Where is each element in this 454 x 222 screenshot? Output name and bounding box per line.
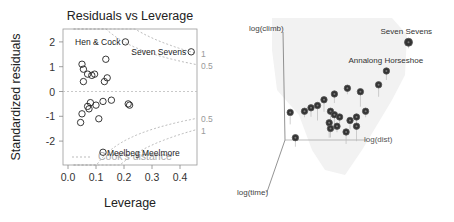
x-tick-label: 0.4 <box>173 171 188 183</box>
data-point <box>103 56 109 62</box>
y-tick-label: 2 <box>49 36 55 48</box>
cooks-level-label-lower: 1 <box>201 126 206 136</box>
point-highlight <box>385 70 387 72</box>
labeled-point <box>188 49 194 55</box>
data-point <box>100 98 106 104</box>
point-highlight <box>339 116 341 118</box>
point-highlight <box>317 105 319 107</box>
point-label: Meelbeg Meelmore <box>107 148 180 158</box>
axis-label-climb: log(climb) <box>249 24 284 33</box>
3d-scatter-chart[interactable]: log(climb) log(dist) log(time) Seven Sev… <box>227 0 454 222</box>
x-tick-label: 0.2 <box>117 171 132 183</box>
data-point <box>77 119 83 125</box>
point-highlight <box>378 84 380 86</box>
y-axis-label: Standardized residuals <box>9 33 23 160</box>
point-highlight <box>359 91 361 93</box>
labeled-point <box>122 39 128 45</box>
x-tick-label: 0.0 <box>61 171 76 183</box>
point-highlight <box>346 87 348 89</box>
data-point <box>96 116 102 122</box>
point-highlight <box>310 107 312 109</box>
y-tick-label: 1 <box>49 61 55 73</box>
axis-time <box>267 140 285 192</box>
point-highlight <box>328 122 330 124</box>
residuals-vs-leverage-chart: Residuals vs Leverage Leverage Standardi… <box>0 0 227 222</box>
axis-label-time: log(time) <box>237 188 268 197</box>
axis-label-dist: log(dist) <box>364 135 393 144</box>
3d-bounding-plane <box>272 18 407 175</box>
cooks-level-label-upper: 1 <box>201 49 206 59</box>
point-highlight <box>345 131 347 133</box>
point-highlight <box>349 119 351 121</box>
x-axis-label: Leverage <box>104 196 156 210</box>
data-point <box>108 97 114 103</box>
y-tick-label: -2 <box>46 135 55 147</box>
data-point <box>84 71 90 77</box>
point-highlight <box>365 110 367 112</box>
point-highlight <box>294 137 296 139</box>
cooks-level-label-upper: 0.5 <box>201 61 213 71</box>
x-tick-label: 0.3 <box>145 171 160 183</box>
point-highlight <box>333 114 335 116</box>
3d-scatter-svg[interactable]: log(climb) log(dist) log(time) Seven Sev… <box>227 0 454 222</box>
point-label: Hen & Cock <box>75 37 121 47</box>
3d-point-label: Seven Sevens <box>381 27 433 36</box>
chart-title: Residuals vs Leverage <box>67 9 194 23</box>
point-highlight <box>356 116 358 118</box>
point-highlight <box>330 128 332 130</box>
y-tick-label: -1 <box>46 110 55 122</box>
point-highlight <box>330 110 332 112</box>
x-tick-label: 0.1 <box>89 171 104 183</box>
data-point <box>79 111 85 117</box>
residuals-vs-leverage-svg: Residuals vs Leverage Leverage Standardi… <box>0 0 227 222</box>
data-point <box>126 102 132 108</box>
point-highlight <box>289 111 291 113</box>
point-highlight <box>304 110 306 112</box>
point-highlight <box>333 93 335 95</box>
point-label: Seven Sevens <box>131 47 186 57</box>
y-tick-label: 0 <box>49 86 55 98</box>
data-point <box>93 102 99 108</box>
point-highlight <box>408 41 410 43</box>
point-highlight <box>356 125 358 127</box>
cooks-level-label-lower: 0.5 <box>201 114 213 124</box>
data-point <box>80 78 86 84</box>
3d-point-label: Annalong Horseshoe <box>348 56 423 65</box>
point-highlight <box>336 125 338 127</box>
point-highlight <box>323 99 325 101</box>
